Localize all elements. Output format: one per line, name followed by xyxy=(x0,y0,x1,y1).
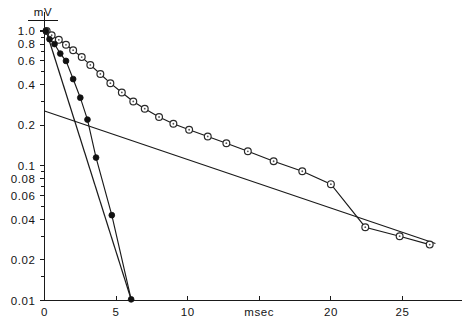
x-tick-label-10: 10 xyxy=(181,306,195,318)
data-point-filled xyxy=(63,58,69,64)
data-point-open-center xyxy=(429,244,431,246)
y-tick-label-0.04: 0.04 xyxy=(11,214,36,226)
data-point-filled xyxy=(109,212,115,218)
data-point-filled xyxy=(43,28,49,34)
fast-exponential-fit xyxy=(46,31,131,299)
data-point-open-center xyxy=(207,136,209,138)
y-axis-tick-labels: 1.00.80.60.40.20.10.080.060.040.020.01 xyxy=(11,25,36,307)
data-point-open-center xyxy=(81,56,83,58)
data-point-open-center xyxy=(225,142,227,144)
x-axis-tick-labels: 0510msec2025 xyxy=(41,306,410,318)
data-point-filled xyxy=(77,95,83,101)
data-point-open-center xyxy=(301,170,303,172)
data-point-open-center xyxy=(273,160,275,162)
data-point-open-center xyxy=(109,82,111,84)
data-point-open-center xyxy=(132,101,134,103)
data-point-open-center xyxy=(364,226,366,228)
data-point-filled xyxy=(93,155,99,161)
data-point-open-center xyxy=(65,44,67,46)
y-axis-unit-label-group: mV xyxy=(28,6,58,21)
data-point-open-center xyxy=(330,183,332,185)
data-point-open-center xyxy=(158,116,160,118)
y-tick-label-0.01: 0.01 xyxy=(11,295,36,307)
y-tick-label-0.4: 0.4 xyxy=(18,79,36,91)
data-markers-group xyxy=(43,28,433,303)
x-axis-major-ticks xyxy=(116,296,402,301)
data-point-filled xyxy=(57,51,63,57)
slow-exponential-fit xyxy=(45,111,436,243)
y-tick-label-0.06: 0.06 xyxy=(11,190,36,202)
figure-container: 1.00.80.60.40.20.10.080.060.040.020.01 0… xyxy=(0,0,469,325)
x-tick-label-5: 5 xyxy=(113,306,120,318)
data-point-open-center xyxy=(121,92,123,94)
y-tick-label-0.02: 0.02 xyxy=(11,254,36,266)
data-point-open-center xyxy=(247,150,249,152)
x-tick-label-20: 20 xyxy=(324,306,338,318)
y-axis-unit-label: mV xyxy=(34,6,53,18)
semilog-decay-plot: 1.00.80.60.40.20.10.080.060.040.020.01 0… xyxy=(0,0,469,325)
data-point-filled xyxy=(70,76,76,82)
data-point-filled xyxy=(52,41,58,47)
y-tick-label-0.6: 0.6 xyxy=(18,55,36,67)
y-tick-label-0.2: 0.2 xyxy=(18,119,36,131)
x-tick-label-0: 0 xyxy=(41,306,48,318)
plot-axes xyxy=(45,12,463,301)
y-tick-label-0.8: 0.8 xyxy=(18,38,36,50)
data-point-open-center xyxy=(51,34,53,36)
data-point-open-center xyxy=(172,123,174,125)
x-tick-label-25: 25 xyxy=(396,306,410,318)
data-point-open-center xyxy=(188,129,190,131)
data-point-open-center xyxy=(99,73,101,75)
data-point-open-center xyxy=(89,64,91,66)
data-point-open-center xyxy=(399,235,401,237)
data-point-open-center xyxy=(144,108,146,110)
y-tick-label-1.0: 1.0 xyxy=(18,25,36,37)
data-point-filled xyxy=(85,117,91,123)
data-point-filled xyxy=(128,296,134,302)
y-tick-label-0.1: 0.1 xyxy=(18,160,36,172)
data-point-open-center xyxy=(58,39,60,41)
y-tick-label-0.08: 0.08 xyxy=(11,173,36,185)
data-curves-group xyxy=(46,31,430,299)
data-point-filled xyxy=(47,36,53,42)
data-point-open-center xyxy=(72,49,74,51)
x-axis-unit-label: msec xyxy=(244,306,274,318)
